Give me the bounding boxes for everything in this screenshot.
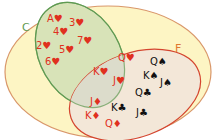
card-king-hearts: K♥ xyxy=(93,67,109,77)
card-ace-hearts: A♥ xyxy=(47,14,63,24)
card-jack-hearts: J♥ xyxy=(113,76,125,86)
card-jack-diamonds: J♦ xyxy=(90,97,102,107)
card-queen-diamonds: Q♦ xyxy=(105,119,122,129)
card-seven-hearts: 7♥ xyxy=(77,36,92,46)
card-queen-spades: Q♠ xyxy=(150,57,167,67)
card-four-hearts: 4♥ xyxy=(53,27,68,37)
card-two-hearts: 2♥ xyxy=(36,41,51,51)
card-jack-spades: J♠ xyxy=(160,78,172,88)
card-six-hearts: 6♥ xyxy=(45,57,60,67)
card-queen-hearts: Q♥ xyxy=(118,53,135,63)
card-queen-clubs: Q♣ xyxy=(135,88,152,98)
set-c-label: C xyxy=(22,22,30,33)
card-jack-clubs: J♣ xyxy=(136,108,148,118)
card-five-hearts: 5♥ xyxy=(59,45,74,55)
card-three-hearts: 3♥ xyxy=(69,18,84,28)
card-king-spades: K♠ xyxy=(143,71,159,81)
card-king-clubs: K♣ xyxy=(111,103,127,113)
set-f-label: F xyxy=(175,43,181,54)
card-king-diamonds: K♦ xyxy=(85,111,101,121)
